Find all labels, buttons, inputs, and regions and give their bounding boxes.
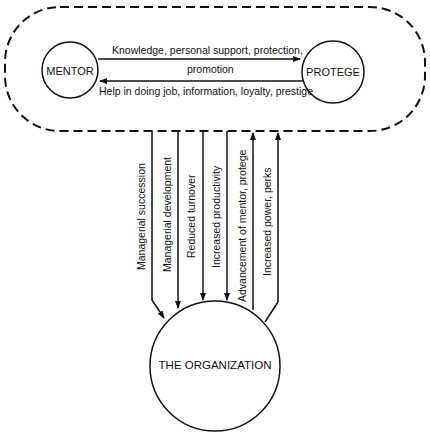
vertical-label-increased-power: Increased power, perks (262, 167, 273, 276)
protege-to-mentor-label: Help in doing job, information, loyalty,… (99, 86, 313, 97)
vertical-label-managerial-succession: Managerial succession (136, 163, 147, 270)
mentor-to-protege-line2: promotion (187, 64, 234, 75)
protege-label: PROTEGE (306, 67, 360, 78)
mentor-to-protege-line1: Knowledge, personal support, protection, (112, 45, 303, 56)
organization-label: THE ORGANIZATION (159, 360, 272, 372)
vertical-label-advancement: Advancement of mentor, protege (237, 150, 248, 302)
vertical-label-managerial-development: Managerial development (162, 157, 173, 272)
vertical-label-reduced-turnover: Reduced turnover (186, 175, 197, 258)
vertical-label-increased-productivity: Increased productivity (211, 166, 222, 268)
mentor-label: MENTOR (46, 66, 93, 77)
